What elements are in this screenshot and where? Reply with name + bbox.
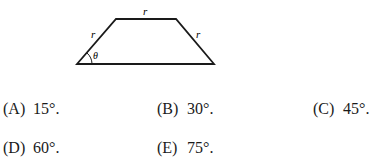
choice-a[interactable]: (A)15°. xyxy=(3,100,59,118)
trapezoid-figure: r r r θ xyxy=(0,0,374,80)
choice-a-value: 15°. xyxy=(33,100,59,117)
choice-c-value: 45°. xyxy=(343,100,369,117)
choice-d[interactable]: (D)60°. xyxy=(3,139,59,157)
label-theta: θ xyxy=(93,50,98,61)
label-left: r xyxy=(91,28,96,40)
choice-b-label: (B) xyxy=(157,100,187,118)
choice-d-label: (D) xyxy=(3,139,33,157)
choice-a-label: (A) xyxy=(3,100,33,118)
angle-arc xyxy=(87,53,92,64)
label-right: r xyxy=(196,28,201,40)
choice-e-value: 75°. xyxy=(187,139,213,156)
choice-e[interactable]: (E)75°. xyxy=(157,139,213,157)
choice-b-value: 30°. xyxy=(187,100,213,117)
choice-c-label: (C) xyxy=(313,100,343,118)
choice-e-label: (E) xyxy=(157,139,187,157)
label-top: r xyxy=(143,5,148,17)
choice-d-value: 60°. xyxy=(33,139,59,156)
choice-b[interactable]: (B)30°. xyxy=(157,100,213,118)
choice-c[interactable]: (C)45°. xyxy=(313,100,369,118)
